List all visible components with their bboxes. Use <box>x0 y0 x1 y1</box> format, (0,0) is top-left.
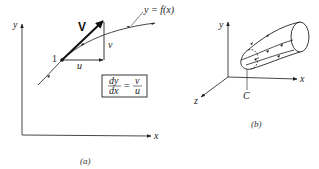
figure-canvas: y x y = f(x) 1 V u v dy <box>0 0 319 169</box>
y-axis-label-a: y <box>12 19 18 30</box>
curve-arrow-icon <box>151 23 155 25</box>
tube-far-end <box>291 22 309 52</box>
z-axis-label-b: z <box>193 95 198 106</box>
eq-rhs-denominator: u <box>135 85 140 96</box>
y-axis-label-b: y <box>218 19 224 30</box>
flow-arrow-icon <box>277 55 280 58</box>
v-label: v <box>108 39 113 50</box>
curve-label-a: y = f(x) <box>143 4 175 16</box>
curve-c-label: C <box>243 90 250 101</box>
vector-label: V <box>78 20 86 34</box>
x-axis-label-b: x <box>299 73 305 84</box>
caption-b: (b) <box>251 119 262 129</box>
caption-a: (a) <box>80 156 91 166</box>
x-axis-b <box>228 77 297 79</box>
flow-arrow-icon <box>254 58 257 61</box>
eq-equals: = <box>124 80 130 91</box>
z-axis-b <box>201 77 228 97</box>
flow-arrow-icon <box>250 42 253 45</box>
u-label: u <box>77 60 82 71</box>
figure-a: y x y = f(x) 1 V u v dy <box>12 4 175 166</box>
point-label: 1 <box>52 53 57 64</box>
equation-box: dy dx = v u <box>102 75 147 97</box>
figure-b: y x z C ( <box>193 19 309 129</box>
stream-tube: C <box>241 22 309 101</box>
x-axis-a <box>22 135 151 136</box>
x-axis-label-a: x <box>153 130 159 141</box>
flow-arrow-icon <box>266 50 269 53</box>
curve-a: y = f(x) <box>38 4 175 85</box>
eq-lhs-denominator: dx <box>109 85 119 96</box>
curve-label-leader <box>131 12 143 26</box>
